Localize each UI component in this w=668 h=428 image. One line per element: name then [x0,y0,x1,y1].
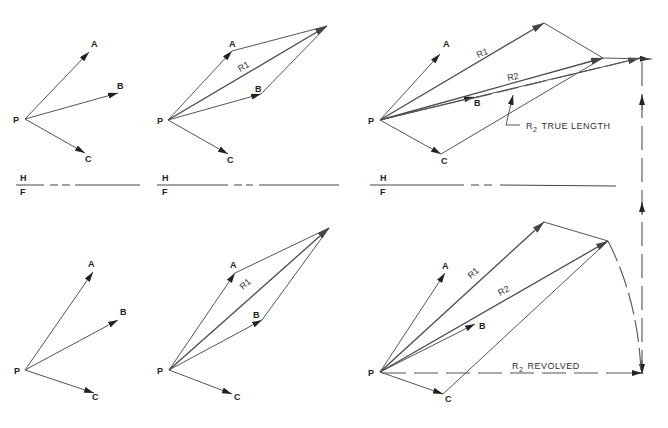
panel-top-3: P A B C R1 R2 R2TRUE LENGTH [368,23,652,166]
label-b: B [255,84,262,94]
label-c: C [234,392,241,402]
label-p: P [13,115,19,125]
vector-pa [169,273,235,370]
label-h: H [162,173,169,183]
vector-pc [25,119,85,153]
label-f: F [380,187,386,197]
vector-pc [168,120,228,154]
label-c: C [441,156,448,166]
vector-pb [25,93,118,119]
resultant-r1 [380,222,544,372]
vector-pa [380,273,445,372]
label-f: F [20,187,26,197]
label-b: B [117,81,124,91]
construction-line [443,241,608,394]
vector-pa [25,272,93,370]
revolution-arc [608,241,641,372]
label-c: C [445,394,452,404]
vector-pc [380,120,441,154]
panel-bottom-1: P A B C [14,259,127,402]
vector-diagram: P A B C P A B C R1 P A B C R1 R2 [0,0,668,428]
panel-bottom-2: P A B C R1 [157,228,329,402]
label-r2-true-length: R2TRUE LENGTH [526,121,610,133]
label-h: H [20,173,27,183]
panel-top-1: P A B C [13,39,124,164]
label-r1: R1 [466,265,481,280]
parallelogram-side [235,228,329,273]
label-p: P [14,366,20,376]
vector-pb [380,324,475,372]
construction-line [544,23,603,58]
vector-pc [380,372,443,394]
label-r1: R1 [238,276,253,291]
label-b: B [474,98,481,108]
label-r1: R1 [475,46,489,60]
panel-bottom-3: P A B C R1 R2 R2REVOLVED [368,222,642,404]
label-r2-revolved: R2REVOLVED [512,361,580,373]
vector-pa [168,51,232,120]
label-a: A [229,39,236,49]
vector-pb [25,320,118,370]
label-f: F [162,187,168,197]
vector-pc [25,370,94,393]
vector-pa [25,52,89,119]
label-a: A [91,39,98,49]
label-c: C [227,155,234,165]
label-c: C [92,392,99,402]
label-p: P [368,368,374,378]
resultant-r1 [168,26,327,120]
vector-pb [169,320,262,370]
resultant-r2 [380,241,608,372]
label-p: P [157,116,163,126]
construction-line [544,222,608,241]
label-c: C [85,154,92,164]
label-b: B [479,321,486,331]
parallelogram-side [261,26,327,94]
label-p: P [368,116,374,126]
label-a: A [230,260,237,270]
resultant-r1 [380,23,544,120]
hf-line-3: H F [370,173,616,197]
label-r2: R2 [496,284,511,298]
panel-top-2: P A B C R1 [157,26,327,165]
label-a: A [88,259,95,269]
vector-pc [169,370,232,394]
vector-pb [168,94,261,120]
label-a: A [442,261,449,271]
label-h: H [380,173,387,183]
resultant-r2 [380,58,603,120]
label-b: B [253,310,260,320]
parallelogram-side [262,228,329,320]
label-b: B [120,307,127,317]
label-a: A [443,39,450,49]
hf-line-2: H F [157,173,339,197]
hf-line-1: H F [16,173,140,197]
true-length-leader [506,95,513,125]
resultant-r1 [169,228,329,370]
parallelogram-side [232,26,327,51]
vector-pa [380,54,440,120]
label-p: P [157,366,163,376]
